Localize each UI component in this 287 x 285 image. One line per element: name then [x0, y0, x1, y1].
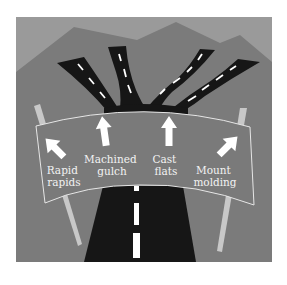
label-rapid-rapids: Rapid rapids — [47, 164, 82, 188]
label-cast-flats: Cast flats — [152, 153, 179, 177]
road-fork-diagram: Rapid rapids Machined gulch Cast flats M… — [0, 0, 287, 285]
label-mount-molding: Mount molding — [193, 164, 236, 188]
